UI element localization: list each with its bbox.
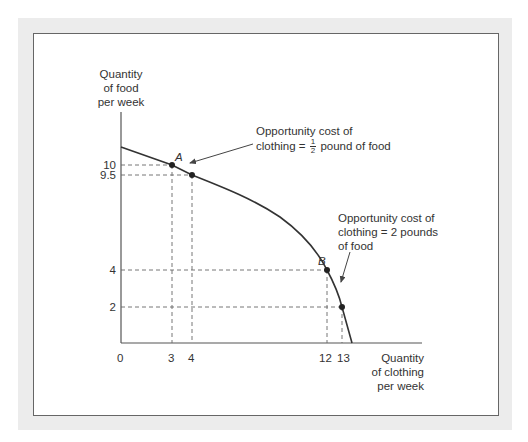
ppf-chart — [0, 0, 528, 442]
y-tick-4: 4 — [84, 263, 116, 277]
point-a2-marker — [189, 172, 195, 178]
y-tick-2: 2 — [84, 300, 116, 314]
x-tick-0: 0 — [117, 351, 123, 365]
annotation-arrow-2 — [341, 252, 350, 282]
annotation-arrow-1 — [190, 144, 253, 163]
y-axis-label: Quantity of food per week — [88, 67, 154, 109]
annotation-2: Opportunity cost of clothing = 2 pounds … — [338, 211, 438, 253]
x-axis-label: Quantity of clothing per week — [352, 351, 424, 393]
point-b2-marker — [339, 304, 345, 310]
x-tick-13: 13 — [337, 351, 350, 365]
annotation-1: Opportunity cost of clothing = 12 pound … — [256, 124, 391, 155]
point-a-label: A — [175, 150, 183, 164]
point-b-label: B — [318, 254, 326, 268]
fraction-one-half: 12 — [310, 138, 316, 155]
x-tick-4: 4 — [188, 351, 194, 365]
x-tick-3: 3 — [168, 351, 174, 365]
x-tick-12: 12 — [319, 351, 332, 365]
y-tick-9-5: 9.5 — [84, 168, 116, 182]
ppf-curve — [121, 147, 352, 343]
